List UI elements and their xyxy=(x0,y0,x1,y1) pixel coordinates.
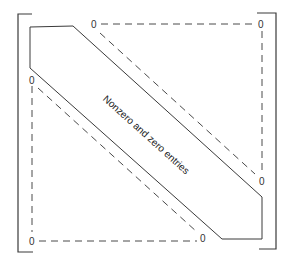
right-matrix-bracket xyxy=(257,13,276,249)
zero-label-right-band-end: 0 xyxy=(259,176,265,187)
zero-label-bottom-left-corner: 0 xyxy=(29,236,35,247)
zero-label-bottom-band-end: 0 xyxy=(200,233,206,244)
zero-label-left-band-start: 0 xyxy=(29,75,35,86)
zero-label-top-right-corner: 0 xyxy=(258,19,264,30)
left-matrix-bracket xyxy=(18,14,33,252)
banded-matrix-figure: 0 0 0 0 0 0 Nonzero and zero entries xyxy=(0,0,294,262)
upper-diagonal-dashed-edge xyxy=(100,33,255,174)
matrix-diagram: 0 0 0 0 0 0 Nonzero and zero entries xyxy=(0,0,294,262)
zero-label-top-band-start: 0 xyxy=(91,19,97,30)
band-label: Nonzero and zero entries xyxy=(101,93,192,176)
